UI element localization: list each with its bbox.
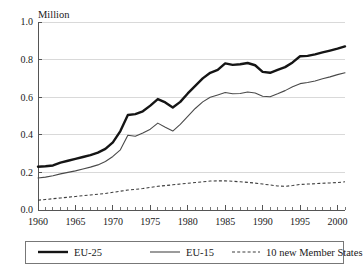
legend-label-eu-15: EU-15 <box>186 247 214 258</box>
x-tick-label: 1995 <box>290 216 310 227</box>
y-tick-label: 0.2 <box>21 167 34 178</box>
chart-legend: EU-25EU-1510 new Member States <box>25 241 363 263</box>
x-tick-label: 1980 <box>178 216 198 227</box>
x-tick-label: 1960 <box>28 216 48 227</box>
x-tick-label: 1990 <box>253 216 273 227</box>
x-tick-label: 1965 <box>65 216 85 227</box>
x-tick-label: 1985 <box>215 216 235 227</box>
legend-label-eu-25: EU-25 <box>74 247 102 258</box>
chart-container: 0.00.20.40.60.81.0 196019651970197519801… <box>0 0 363 269</box>
x-tick-label: 1975 <box>140 216 160 227</box>
y-tick-label: 0.0 <box>21 204 34 215</box>
x-tick-label: 1970 <box>103 216 123 227</box>
x-tick-label: 2000 <box>328 216 348 227</box>
y-axis-label: Million <box>38 9 70 20</box>
y-tick-label: 0.8 <box>21 54 34 65</box>
x-tick-labels: 196019651970197519801985199019952000 <box>28 216 348 227</box>
y-tick-label: 0.6 <box>21 92 34 103</box>
y-tick-label: 1.0 <box>21 16 34 27</box>
legend-label-10-new-member-states: 10 new Member States <box>266 247 363 258</box>
line-chart: 0.00.20.40.60.81.0 196019651970197519801… <box>0 0 363 269</box>
y-tick-label: 0.4 <box>21 129 34 140</box>
